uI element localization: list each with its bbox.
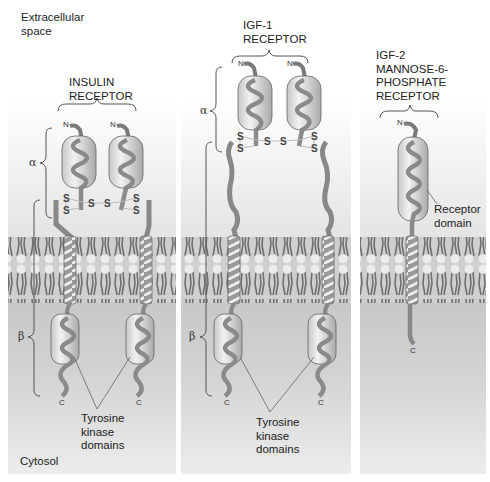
- svg-text:S: S: [133, 205, 140, 216]
- svg-text:β: β: [18, 330, 24, 343]
- igf1-receptor-title: IGF-1 RECEPTOR: [243, 19, 307, 46]
- svg-text:C: C: [224, 398, 230, 407]
- svg-text:N: N: [287, 59, 293, 68]
- svg-text:S: S: [63, 193, 70, 204]
- svg-text:S: S: [311, 143, 318, 154]
- svg-text:S: S: [104, 198, 111, 209]
- svg-text:C: C: [410, 346, 416, 355]
- svg-text:N: N: [397, 118, 403, 127]
- svg-text:S: S: [133, 193, 140, 204]
- insulin-receptor-title: INSULIN RECEPTOR: [69, 76, 133, 103]
- svg-text:S: S: [280, 136, 287, 147]
- svg-text:N: N: [238, 59, 244, 68]
- svg-text:C: C: [59, 398, 65, 407]
- svg-text:N: N: [63, 120, 69, 129]
- svg-text:C: C: [318, 398, 324, 407]
- svg-text:α: α: [29, 156, 37, 169]
- svg-text:S: S: [237, 143, 244, 154]
- svg-text:S: S: [88, 198, 95, 209]
- membrane-igf2: [360, 237, 486, 303]
- svg-text:S: S: [264, 136, 271, 147]
- extracellular-space-label: Extracellular space: [21, 11, 84, 38]
- igf2-receptor-structure: N C: [380, 105, 438, 355]
- igf1-receptor-structure: α β N N S S S S S S C C: [189, 50, 336, 412]
- receptor-domain-label: Receptor domain: [434, 203, 481, 230]
- igf1-tyrosine-kinase-label: Tyrosine kinase domains: [256, 416, 299, 457]
- igf2-receptor-title: IGF-2 MANNOSE-6- PHOSPHATE RECEPTOR: [376, 49, 448, 103]
- svg-text:S: S: [63, 205, 70, 216]
- insulin-tyrosine-kinase-label: Tyrosine kinase domains: [81, 412, 124, 453]
- svg-text:β: β: [189, 330, 195, 343]
- svg-text:S: S: [311, 131, 318, 142]
- svg-text:α: α: [200, 104, 208, 117]
- svg-text:S: S: [237, 131, 244, 142]
- svg-text:C: C: [136, 398, 142, 407]
- svg-text:N: N: [110, 120, 116, 129]
- cytosol-label: Cytosol: [20, 455, 58, 469]
